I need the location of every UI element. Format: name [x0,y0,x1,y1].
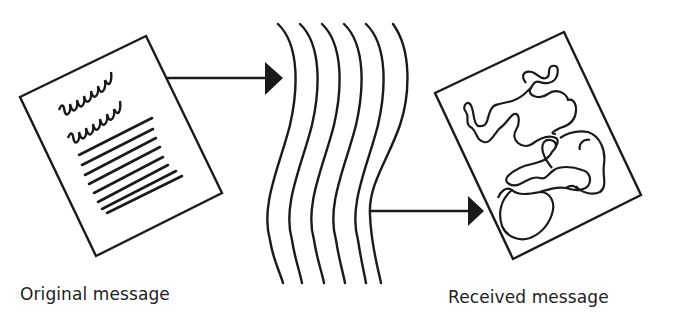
noise-channel-icon [267,24,407,283]
arrow-to-received [371,196,484,226]
arrow-to-channel [166,62,283,95]
received-document-icon [435,32,641,259]
communication-diagram [0,0,674,332]
original-message-label: Original message [20,284,170,304]
received-message-label: Received message [448,287,609,307]
original-document-icon [20,36,222,256]
